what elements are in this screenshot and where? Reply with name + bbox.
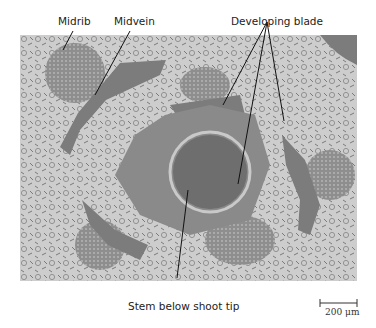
scale-bar-label: 200 μm [325,307,359,317]
leader-lines [0,0,376,328]
label-developing-blade: Developing blade [231,15,323,27]
label-midrib: Midrib [58,15,91,27]
label-midvein: Midvein [114,15,155,27]
label-stem-below-shoot-tip: Stem below shoot tip [128,300,239,312]
